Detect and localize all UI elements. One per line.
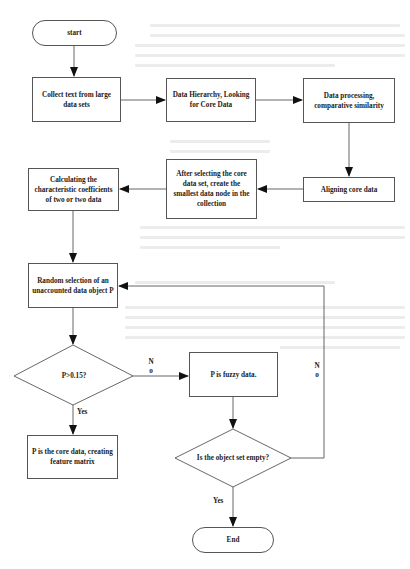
fuzzy-data-label: P is fuzzy data.: [211, 370, 257, 380]
data-processing-box: Data processing, comparative similarity: [303, 78, 395, 123]
start-terminator: start: [32, 20, 117, 46]
aligning-core-data-box: Aligning core data: [303, 177, 395, 202]
calculating-coefficients-box: Calculating the characteristic coefficie…: [28, 168, 119, 211]
aligning-core-data-label: Aligning core data: [321, 185, 378, 195]
edge-label-empty-no: N o: [312, 362, 322, 380]
data-hierarchy-box: Data Hierarchy, Looking for Core Data: [166, 78, 256, 122]
end-terminator: End: [192, 527, 274, 553]
edge-label-empty-yes: Yes: [213, 497, 223, 506]
core-data-box: P is the core data, creating feature mat…: [27, 435, 118, 479]
after-selecting-box: After selecting the core data set, creat…: [166, 159, 257, 219]
after-selecting-label: After selecting the core data set, creat…: [170, 169, 253, 209]
core-data-label: P is the core data, creating feature mat…: [31, 447, 114, 467]
edge-label-p-yes: Yes: [77, 408, 87, 417]
decision-empty-label: Is the object set empty?: [193, 448, 273, 468]
decision-p-label: P>0.15?: [34, 370, 114, 382]
edge-label-p-no: N o: [146, 358, 156, 376]
data-processing-label: Data processing, comparative similarity: [307, 91, 391, 111]
fuzzy-data-box: P is fuzzy data.: [189, 352, 278, 397]
start-label: start: [67, 28, 81, 38]
calculating-coefficients-label: Calculating the characteristic coefficie…: [32, 175, 115, 205]
random-selection-box: Random selection of an unaccounted data …: [28, 263, 118, 308]
random-selection-label: Random selection of an unaccounted data …: [32, 276, 114, 296]
data-hierarchy-label: Data Hierarchy, Looking for Core Data: [170, 90, 252, 110]
collect-text-box: Collect text from large data sets: [32, 77, 121, 122]
end-label: End: [227, 535, 240, 545]
collect-text-label: Collect text from large data sets: [36, 90, 117, 110]
